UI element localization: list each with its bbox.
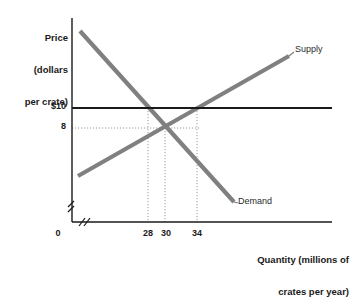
y-axis-title-line-1: Price <box>14 33 68 44</box>
origin-label: 0 <box>50 228 66 238</box>
y-axis-title-line-2: (dollars <box>14 65 68 76</box>
demand-curve <box>80 31 234 202</box>
y-tick-label-10: $10 <box>34 101 66 111</box>
x-tick-label-30: 30 <box>155 228 177 238</box>
x-axis-title-line-2: crates per year) <box>219 287 349 298</box>
supply-label-leader <box>289 52 294 56</box>
x-axis-title: Quantity (millions of crates per year) <box>219 234 349 301</box>
supply-curve <box>78 56 289 176</box>
y-axis-break-icon <box>68 201 74 212</box>
x-tick-label-34: 34 <box>186 228 208 238</box>
x-axis-title-line-1: Quantity (millions of <box>219 255 349 266</box>
y-axis-title: Price (dollars per crate) <box>14 12 68 129</box>
y-tick-label-8: 8 <box>34 121 66 131</box>
demand-curve-label: Demand <box>238 196 272 206</box>
supply-curve-label: Supply <box>295 44 323 54</box>
guide-lines <box>72 108 200 222</box>
